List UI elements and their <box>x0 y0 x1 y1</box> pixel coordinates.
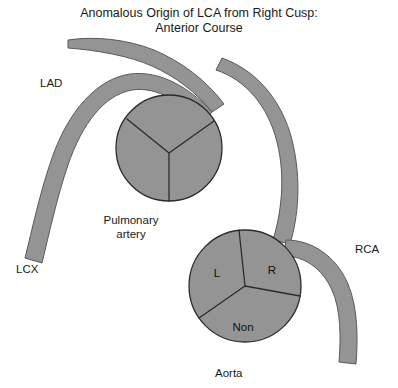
diagram-canvas: Anomalous Origin of LCA from Right Cusp:… <box>0 0 398 388</box>
anomalous-lca-vessel <box>216 58 298 244</box>
label-pulmonary-artery-line-1: Pulmonary <box>88 213 174 227</box>
aortic-cusp-label-right: R <box>268 264 276 276</box>
label-lcx: LCX <box>16 262 38 276</box>
aortic-cusp-label-left: L <box>214 267 221 279</box>
label-pulmonary-artery: Pulmonary artery <box>88 213 174 241</box>
anatomy-illustration: L R Non <box>0 0 398 388</box>
aortic-cusp-label-non: Non <box>232 321 253 333</box>
label-aorta: Aorta <box>215 366 243 380</box>
label-lad: LAD <box>40 76 62 90</box>
label-rca: RCA <box>355 242 379 256</box>
label-pulmonary-artery-line-2: artery <box>88 227 174 241</box>
